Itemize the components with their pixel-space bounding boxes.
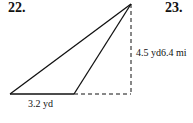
problem-number-23: 23. <box>165 1 183 15</box>
base-label: 3.2 yd <box>28 99 53 109</box>
triangle-side-short <box>74 4 131 94</box>
triangle-side-long <box>10 4 131 94</box>
height-label: 4.5 yd <box>136 48 161 58</box>
measurement-label-23: 6.4 mi <box>161 48 187 58</box>
